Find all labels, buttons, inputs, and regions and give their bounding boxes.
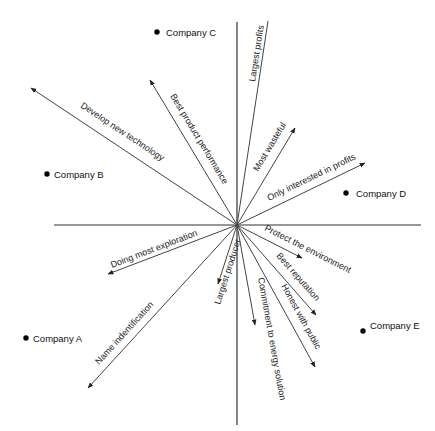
label-doing-most-exploration: Doing most exploration	[109, 228, 199, 270]
company-e-label: Company E	[370, 320, 420, 331]
label-commitment-to-energy-solution: Commitment to energy solution	[256, 277, 288, 401]
label-develop-new-technology: Develop new technology	[79, 100, 167, 163]
company-e-marker	[360, 328, 365, 333]
company-b-label: Company B	[54, 169, 104, 180]
label-protect-the-environment: Protect the environment	[263, 223, 353, 275]
company-d-point: Company D	[343, 188, 406, 199]
company-a-marker	[23, 335, 28, 340]
company-b-marker	[44, 171, 49, 176]
label-name-indentification: Name indentification	[93, 299, 155, 366]
company-d-label: Company D	[356, 188, 406, 199]
company-c-label: Company C	[166, 27, 216, 38]
label-most-wasteful: Most wasteful	[251, 121, 288, 173]
company-b-point: Company B	[44, 169, 103, 180]
label-best-product-performance: Best product performance	[168, 92, 230, 186]
company-c-point: Company C	[154, 27, 216, 38]
company-e-point: Company E	[360, 320, 419, 334]
company-c-marker	[154, 29, 159, 34]
label-largest-producer: Largest producer	[212, 238, 242, 306]
company-a-label: Company A	[33, 333, 83, 344]
perceptual-map: Largest profits Best product performance…	[0, 0, 435, 431]
label-only-interested-in-profits: Only interested in profits	[266, 151, 358, 202]
company-d-marker	[343, 190, 348, 195]
vector-doing-most-exploration	[108, 225, 237, 274]
company-a-point: Company A	[23, 333, 82, 344]
